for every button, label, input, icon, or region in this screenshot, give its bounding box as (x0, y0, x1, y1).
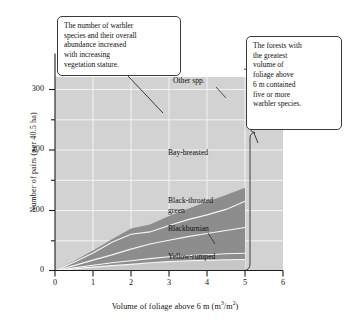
x-tick-label-4: 4 (197, 278, 217, 287)
y-axis-ticks (49, 90, 55, 271)
annotation-right-line-6: five or more (253, 90, 336, 100)
annotation-right-line-4: foliage above (253, 70, 336, 80)
annotation-right-line-1: The forests with (253, 41, 336, 51)
annotation-callout-left: The number of warbler species and their … (57, 16, 181, 76)
series-label-bay-breasted: Bay-breasted (168, 148, 208, 158)
series-label-black-throated-green-line1: Black-throated (168, 196, 213, 205)
x-tick-label-3: 3 (159, 278, 179, 287)
x-axis-title: Volume of foliage above 6 m (m3/m2) (0, 300, 350, 311)
x-tick-label-1: 1 (83, 278, 103, 287)
x-tick-label-5: 5 (235, 278, 255, 287)
y-axis-title: Number of pairs (per 40.5 ha) (29, 68, 38, 258)
annotation-right-line-5: 6 m contained (253, 80, 336, 90)
x-tick-label-0: 0 (45, 278, 65, 287)
x-axis-ticks (55, 271, 283, 277)
series-label-black-throated-green-line2: green (168, 206, 185, 215)
y-tick-label-0: 0 (18, 265, 44, 274)
annotation-left-line-4: with increasing (64, 50, 175, 60)
annotation-left-line-3: abundance increased (64, 40, 175, 50)
warbler-stacked-area-figure: 0 100 200 300 0 1 2 3 4 5 6 Volume of fo… (0, 0, 350, 320)
series-label-yellow-rumped: Yellow-rumped (168, 252, 215, 262)
x-axis-title-end: ) (236, 302, 239, 311)
annotation-left-line-1: The number of warbler (64, 21, 175, 31)
series-label-black-throated-green: Black-throated green (168, 196, 213, 215)
annotation-right-line-2: the greatest (253, 51, 336, 61)
series-label-blackburnian: Blackburnian (168, 224, 209, 234)
x-tick-label-2: 2 (121, 278, 141, 287)
x-tick-label-6: 6 (273, 278, 293, 287)
annotation-left-line-2: species and their overall (64, 31, 175, 41)
x-axis-title-main: Volume of foliage above 6 m (m (112, 302, 221, 311)
annotation-callout-right: The forests with the greatest volume of … (246, 36, 342, 130)
series-label-other-spp: Other spp. (173, 76, 205, 86)
annotation-right-line-3: volume of (253, 60, 336, 70)
x-axis-title-mid: /m (224, 302, 233, 311)
annotation-left-line-5: vegetation stature. (64, 60, 175, 70)
annotation-right-line-7: warbler species. (253, 99, 336, 109)
